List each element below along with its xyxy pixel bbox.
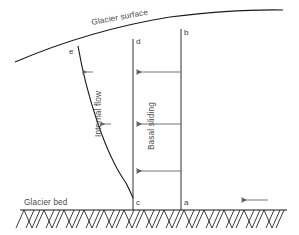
glacier-flow-diagram: Glacier surface Glacier bed Internal flo… — [0, 0, 299, 235]
point-label-a: a — [184, 198, 189, 207]
point-label-b: b — [184, 28, 189, 37]
glacier-surface-curve — [15, 10, 283, 62]
point-label-d: d — [136, 37, 140, 46]
bedrock-hatch-pattern — [16, 210, 284, 228]
diagram-canvas: Glacier surface Glacier bed Internal flo… — [0, 0, 299, 235]
point-label-c: c — [136, 198, 140, 207]
basal-sliding-label: Basal sliding — [147, 102, 156, 150]
velocity-profile-curve — [78, 46, 133, 198]
glacier-bed-label: Glacier bed — [24, 198, 68, 207]
point-label-e: e — [69, 47, 74, 56]
glacier-surface-label: Glacier surface — [91, 8, 149, 27]
internal-flow-label: Internal flow — [94, 91, 103, 137]
